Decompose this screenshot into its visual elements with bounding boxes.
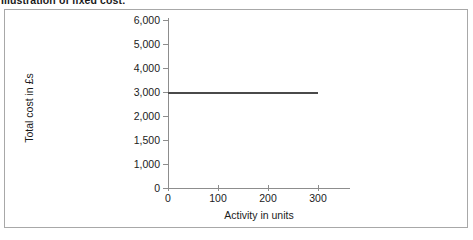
y-tick-label-5: 4,000 — [116, 63, 160, 74]
y-axis-title: Total cost in £s — [23, 48, 35, 168]
x-tick-label-1: 100 — [198, 193, 238, 204]
y-tick-1 — [163, 164, 169, 165]
y-tick-label-1: 1,000 — [116, 159, 160, 170]
x-tick-label-2: 200 — [248, 193, 288, 204]
x-axis-line — [168, 188, 350, 189]
x-axis-title: Activity in units — [168, 209, 350, 221]
y-tick-3 — [163, 116, 169, 117]
x-tick-1 — [218, 185, 219, 191]
y-tick-label-6: 5,000 — [116, 39, 160, 50]
y-tick-label-3: 2,000 — [116, 111, 160, 122]
y-tick-label-7: 6,000 — [116, 15, 160, 26]
y-tick-6 — [163, 44, 169, 45]
x-tick-3 — [318, 185, 319, 191]
y-tick-7 — [163, 20, 169, 21]
x-tick-0 — [168, 185, 169, 191]
y-tick-label-4: 3,000 — [116, 87, 160, 98]
fixed-cost-series-line — [168, 92, 318, 94]
x-tick-label-3: 300 — [298, 193, 338, 204]
x-tick-2 — [268, 185, 269, 191]
x-tick-label-0: 0 — [148, 193, 188, 204]
y-tick-label-2: 1,500 — [116, 135, 160, 146]
y-tick-2 — [163, 140, 169, 141]
y-tick-label-0: 0 — [116, 183, 160, 194]
y-tick-5 — [163, 68, 169, 69]
fixed-cost-line-chart: 0 1,000 1,500 2,000 3,000 4,000 5,000 6,… — [0, 0, 473, 240]
